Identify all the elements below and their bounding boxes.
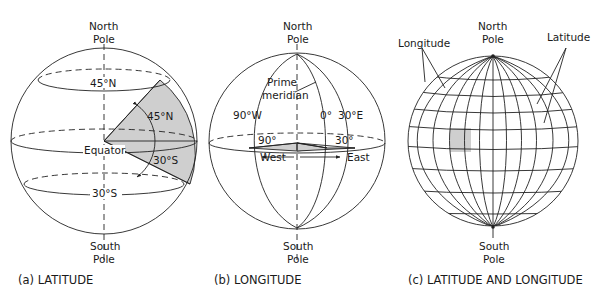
north-pole-label-2: Pole — [482, 33, 504, 45]
panel-lat-long-grid: Longitude Latitude North Pole South Pole… — [398, 20, 590, 287]
latitude-angle-wedge — [104, 80, 195, 184]
south-pole-label: South — [283, 240, 314, 252]
north-pole-label: North — [478, 20, 507, 32]
graticule — [400, 56, 590, 227]
label-angle-30: 30° — [335, 134, 354, 146]
label-prime: Prime — [267, 76, 297, 88]
caption-longitude: (b) LONGITUDE — [214, 273, 301, 287]
caption-latitude: (a) LATITUDE — [18, 273, 93, 287]
label-equator: Equator — [84, 144, 126, 156]
north-pole-label: North — [89, 20, 118, 32]
south-pole-label: South — [90, 240, 121, 252]
prime-meridian — [297, 54, 326, 228]
label-0: 0° — [320, 109, 332, 121]
north-pole-label: North — [283, 20, 312, 32]
south-pole-label-2: Pole — [93, 253, 115, 265]
south-pole-label-2: Pole — [483, 253, 505, 265]
label-30s-ring: 30°S — [92, 187, 118, 199]
label-east: East — [347, 151, 370, 163]
label-45n-ring: 45°N — [90, 77, 116, 89]
caption-lat-long: (c) LATITUDE AND LONGITUDE — [408, 273, 583, 287]
south-pole-label: South — [479, 240, 510, 252]
label-meridian: meridian — [262, 89, 309, 101]
latitude-pointer — [537, 48, 566, 104]
north-pole-label-2: Pole — [287, 33, 309, 45]
north-pole-label-2: Pole — [93, 33, 115, 45]
label-30e: 30°E — [338, 109, 363, 121]
label-30s-angle: 30°S — [153, 154, 179, 166]
figure-canvas: 45°N 45°N Equator 30°S 30°S North Pole S… — [0, 0, 602, 302]
panel-longitude: Prime meridian 90°W 0° 30°E 90° 30° West… — [209, 20, 385, 287]
label-latitude: Latitude — [547, 31, 590, 43]
label-angle-90: 90° — [258, 134, 277, 146]
label-45n-angle: 45°N — [147, 110, 173, 122]
panel-latitude: 45°N 45°N Equator 30°S 30°S North Pole S… — [11, 20, 197, 287]
label-west: West — [260, 151, 286, 163]
label-90w: 90°W — [233, 109, 263, 121]
label-longitude: Longitude — [398, 37, 450, 49]
south-pole-label-2: Pole — [287, 253, 309, 265]
